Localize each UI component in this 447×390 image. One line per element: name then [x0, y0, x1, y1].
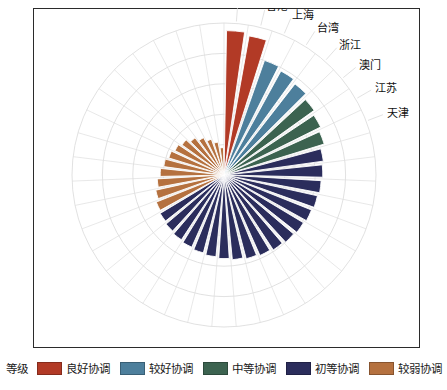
legend-item[interactable]: 较好协调: [120, 360, 193, 376]
tick-leader-line: [326, 48, 337, 60]
axis-tick-label: 澳门: [359, 58, 381, 71]
tick-leader-line: [236, 8, 237, 21]
legend-title: 等级: [6, 360, 28, 376]
axis-tick-label: 江苏: [375, 82, 397, 94]
tick-leader-line: [306, 31, 315, 45]
legend-label: 较好协调: [149, 360, 193, 376]
polar-rose-chart: 北京香港上海台湾浙江澳门江苏天津: [33, 8, 420, 348]
legend-swatch: [369, 362, 394, 375]
legend-label: 中等协调: [232, 360, 276, 376]
axis-tick-label: 香港: [266, 8, 288, 12]
tick-leader-line: [284, 19, 290, 34]
tick-leader-line: [343, 67, 355, 77]
legend-swatch: [286, 362, 311, 375]
legend-swatch: [120, 362, 145, 375]
legend-swatch: [203, 362, 228, 375]
legend-item[interactable]: 初等协调: [286, 360, 359, 376]
legend-label: 良好协调: [66, 360, 110, 376]
axis-tick-label: 浙江: [339, 39, 361, 51]
axis-tick-label: 天津: [387, 107, 409, 119]
tick-leader-line: [368, 115, 383, 121]
legend-item[interactable]: 良好协调: [37, 360, 110, 376]
legend-items: 良好协调较好协调中等协调初等协调较弱协调: [37, 360, 447, 376]
axis-tick-label: 台湾: [317, 21, 339, 34]
legend-item[interactable]: 中等协调: [203, 360, 276, 376]
legend-item[interactable]: 较弱协调: [369, 360, 442, 376]
legend-label: 初等协调: [315, 360, 359, 376]
legend-swatch: [37, 362, 62, 375]
axis-tick-label: 上海: [292, 8, 314, 21]
legend-label: 较弱协调: [398, 360, 442, 376]
legend: 等级 良好协调较好协调中等协调初等协调较弱协调: [0, 355, 428, 381]
tick-leader-line: [357, 90, 371, 98]
tick-leader-line: [261, 10, 265, 26]
